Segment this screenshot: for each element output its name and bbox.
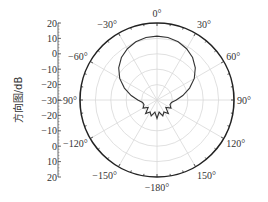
angle-label: 120° — [226, 138, 245, 149]
angle-label: 90° — [237, 95, 251, 106]
grid-spoke — [119, 33, 158, 100]
y-tick-label: 0 — [52, 141, 57, 152]
angle-label: 60° — [226, 51, 240, 62]
y-axis-label: 方向图/dB — [12, 77, 24, 124]
y-tick-label: 10 — [47, 33, 57, 44]
angle-label: −180° — [145, 182, 170, 193]
y-tick-label: 0 — [52, 48, 57, 59]
angle-label: −150° — [92, 170, 117, 181]
grid-spoke — [157, 62, 224, 101]
grid-spoke — [119, 100, 158, 167]
angle-label: −60° — [68, 51, 88, 62]
y-tick-label: 10 — [47, 156, 57, 167]
angle-label: −120° — [63, 138, 88, 149]
y-tick-label: 20 — [47, 172, 57, 183]
y-tick-label: −20 — [41, 110, 57, 121]
y-tick-label: −10 — [41, 125, 57, 136]
polar-chart: 20100−10−20−30−20−1001020 0°30°60°90°120… — [0, 0, 268, 202]
grid-spoke — [90, 62, 157, 101]
y-tick-label: −10 — [41, 64, 57, 75]
y-tick-label: −20 — [41, 79, 57, 90]
grid-spoke — [157, 100, 224, 139]
angle-label: 30° — [197, 19, 211, 30]
angle-label: 150° — [197, 170, 216, 181]
angle-label: −90° — [57, 95, 77, 106]
grid-spoke — [157, 100, 196, 167]
grid-spoke — [90, 100, 157, 139]
angle-label: 0° — [153, 8, 162, 19]
angle-label: −30° — [97, 19, 117, 30]
grid-spoke — [157, 33, 196, 100]
y-tick-label: 20 — [47, 18, 57, 29]
y-tick-label: −30 — [41, 95, 57, 106]
